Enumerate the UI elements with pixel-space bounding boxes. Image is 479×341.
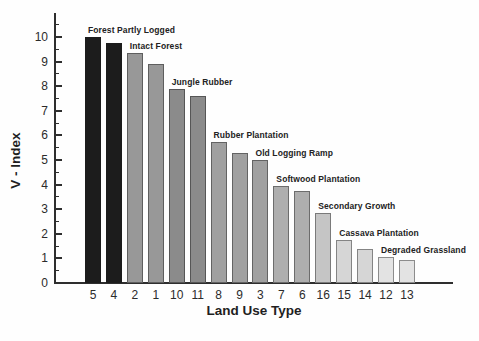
bar-annotation: Intact Forest (130, 41, 182, 51)
y-axis-major-tick (55, 233, 62, 235)
bar (273, 186, 289, 283)
bar (85, 37, 101, 283)
y-axis-major-tick (55, 36, 62, 38)
bar (252, 160, 268, 283)
x-axis-title: Land Use Type (55, 303, 453, 318)
bar (357, 249, 373, 283)
bar (399, 260, 415, 283)
bar-annotation: Old Logging Ramp (255, 148, 333, 158)
y-axis-major-tick (55, 184, 62, 186)
y-axis-major-tick (55, 110, 62, 112)
bar-annotation: Forest Partly Logged (88, 25, 175, 35)
bar (294, 191, 310, 283)
y-axis-title: V - Index (8, 109, 23, 213)
y-axis-tick-label: 0 (15, 276, 48, 290)
y-axis-major-tick (55, 282, 62, 284)
y-axis-minor-tick (55, 123, 59, 124)
y-axis-minor-tick (55, 147, 59, 148)
y-axis-major-tick (55, 257, 62, 259)
bar (378, 257, 394, 283)
bar-annotation: Rubber Plantation (214, 130, 289, 140)
y-axis-tick-label: 8 (15, 79, 48, 93)
y-axis-major-tick (55, 134, 62, 136)
bar-annotation: Degraded Grassland (381, 245, 466, 255)
x-axis-tick-label: 13 (395, 289, 419, 302)
bar (336, 240, 352, 283)
y-axis-minor-tick (55, 246, 59, 247)
y-axis-line (54, 13, 56, 284)
y-axis-minor-tick (55, 196, 59, 197)
y-axis-minor-tick (55, 221, 59, 222)
bar (211, 142, 227, 283)
bar (315, 213, 331, 283)
bar-annotation: Cassava Plantation (339, 228, 419, 238)
y-axis-tick-label: 2 (15, 227, 48, 241)
y-axis-tick-label: 9 (15, 55, 48, 69)
y-axis-tick-label: 1 (15, 251, 48, 265)
y-axis-minor-tick (55, 98, 59, 99)
bar-annotation: Softwood Plantation (276, 174, 360, 184)
y-axis-major-tick (55, 85, 62, 87)
bar (232, 153, 248, 283)
y-axis-minor-tick (55, 270, 59, 271)
bar (169, 89, 185, 283)
bar (127, 53, 143, 283)
y-axis-tick-label: 10 (15, 30, 48, 44)
y-axis-major-tick (55, 61, 62, 63)
y-axis-minor-tick (55, 73, 59, 74)
bar-annotation: Secondary Growth (318, 201, 395, 211)
y-axis-minor-tick (55, 24, 59, 25)
bar (190, 96, 206, 283)
y-axis-minor-tick (55, 49, 59, 50)
bar-chart: 01234567891054211011893761615141213Fores… (0, 0, 479, 341)
y-axis-major-tick (55, 159, 62, 161)
bar (148, 64, 164, 283)
bar-annotation: Jungle Rubber (172, 77, 233, 87)
bar (106, 43, 122, 283)
y-axis-minor-tick (55, 172, 59, 173)
y-axis-major-tick (55, 208, 62, 210)
